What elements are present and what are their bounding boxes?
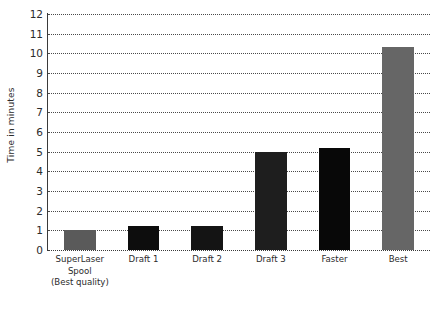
x-axis-tick-label-line: Spool [41,266,119,278]
gridline [48,112,430,113]
gridline [48,73,430,74]
y-axis-tick-label: 10 [30,48,43,59]
y-axis-tick-label: 11 [30,28,43,39]
bar [64,230,96,250]
gridline [48,132,430,133]
gridline [48,53,430,54]
y-axis-tick-label: 6 [36,127,43,138]
gridline [48,152,430,153]
x-axis-tick-label: Best [359,254,437,266]
bar-chart-figure: Time in minutes 0123456789101112 SuperLa… [0,0,442,312]
y-axis-tick-label: 5 [36,146,43,157]
x-axis-category-labels: SuperLaserSpool(Best quality)Draft 1Draf… [48,254,430,310]
gridline [48,93,430,94]
y-axis-tick-label: 2 [36,205,43,216]
gridline [48,34,430,35]
plot-area: 0123456789101112 [48,14,430,250]
gridline [48,211,430,212]
y-axis-tick-label: 9 [36,68,43,79]
y-axis-tick-label: 7 [36,107,43,118]
y-axis-tick-label: 3 [36,186,43,197]
x-axis-baseline [48,250,430,251]
y-axis-tick-label: 4 [36,166,43,177]
y-axis-tick-label: 1 [36,225,43,236]
gridline [48,230,430,231]
y-axis-title-text: Time in minutes [6,87,16,162]
x-axis-tick-label-line: Best [359,254,437,266]
bar [319,148,351,250]
gridline [48,171,430,172]
gridline [48,14,430,15]
bar [191,226,223,250]
bar [382,47,414,250]
y-axis-title: Time in minutes [0,0,22,250]
gridline [48,191,430,192]
y-axis-tick-label: 12 [30,9,43,20]
x-axis-tick-label-line: (Best quality) [41,277,119,289]
bar [128,226,160,250]
bar [255,152,287,250]
y-axis-tick-label: 8 [36,87,43,98]
